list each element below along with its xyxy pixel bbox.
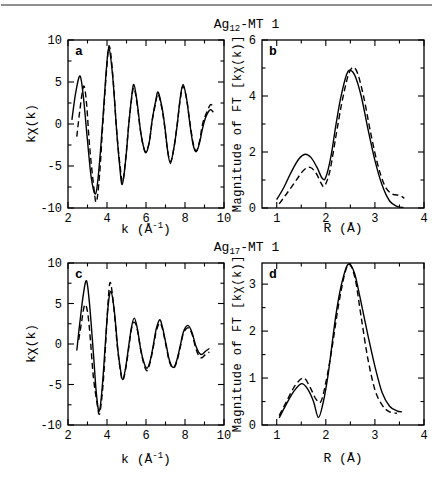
panel-d-ytick-label: 2: [249, 325, 256, 339]
panel-a-ytick-label: 10: [48, 34, 62, 48]
x-axis-title-b: R (Å): [262, 221, 424, 236]
panel-d-ytick-label: 1: [249, 372, 256, 386]
panel-c-xtick-label: 8: [181, 429, 188, 443]
panel-c-curve-experiment: [77, 281, 210, 412]
panel-c-xtick-label: 6: [142, 429, 149, 443]
exafs-figure: Ag12-MT 1 Ag17-MT 1 2468101050-5-1012346…: [0, 0, 435, 486]
panel-b-curve-experiment: [277, 70, 404, 207]
panel-d-xtick-label: 4: [420, 429, 427, 443]
panel-label-c: c: [75, 267, 83, 282]
panel-c-ytick-label: 5: [55, 298, 62, 312]
panel-c-curve-fit: [79, 282, 210, 414]
y-axis-title-d-text: Magnitude of FT [kχ(k)]: [231, 255, 245, 432]
k-label-prefix: k (Å: [121, 222, 152, 237]
panel-a-ytick-label: 5: [55, 76, 62, 90]
panel-a-curve-experiment: [72, 48, 213, 194]
x-axis-title-a: k (Å-1): [68, 221, 224, 237]
y-axis-title-b-text: Magnitude of FT [kχ(k)]: [231, 35, 245, 212]
panel-b-ytick-label: 0: [249, 202, 256, 216]
y-axis-title-b: Magnitude of FT [kχ(k)]: [229, 38, 247, 210]
panel-d-curve-experiment: [279, 264, 402, 418]
r-label: R (Å): [323, 451, 362, 466]
panel-c-xtick-label: 10: [217, 429, 231, 443]
panel-b-ytick-label: 4: [249, 90, 256, 104]
y-axis-title-c: kχ(k): [22, 263, 40, 425]
panel-b-curve-fit: [279, 67, 404, 203]
panel-d-xtick-label: 3: [371, 429, 378, 443]
panel-b-ytick-label: 6: [249, 34, 256, 48]
panel-label-b: b: [269, 44, 277, 59]
panel-d-xtick-label: 1: [273, 429, 280, 443]
panel-b-ytick-label: 2: [249, 146, 256, 160]
panel-a-ytick-label: 0: [55, 118, 62, 132]
panel-d-curve-fit: [279, 264, 397, 416]
panel-a-ytick-label: -5: [48, 160, 62, 174]
panel-c-ytick-label: 10: [48, 257, 62, 271]
x-axis-title-c: k (Å-1): [68, 451, 224, 467]
k-label-superscript: -1: [152, 221, 163, 231]
k-label-prefix: k (Å: [121, 452, 152, 467]
panel-d-ytick-label: 3: [249, 278, 256, 292]
panel-c-ytick-label: -10: [40, 419, 62, 433]
panel-a-ytick-label: -10: [40, 202, 62, 216]
panel-a-curve-fit: [77, 46, 213, 202]
y-axis-title-d: Magnitude of FT [kχ(k)]: [229, 261, 247, 427]
k-label-suffix: ): [163, 222, 171, 237]
k-label-suffix: ): [163, 452, 171, 467]
k-label-superscript: -1: [152, 451, 163, 461]
y-axis-title-a: kχ(k): [22, 40, 40, 208]
panel-c-xtick-label: 4: [103, 429, 110, 443]
panel-c-ytick-label: 0: [55, 338, 62, 352]
panel-d-frame: [262, 263, 424, 425]
y-axis-title-a-text: kχ(k): [24, 104, 39, 143]
x-axis-title-d: R (Å): [262, 451, 424, 466]
panel-c-xtick-label: 2: [64, 429, 71, 443]
panel-label-a: a: [75, 44, 83, 59]
r-label: R (Å): [323, 221, 362, 236]
panel-d-xtick-label: 2: [322, 429, 329, 443]
figure-svg: 2468101050-5-10123464202468101050-5-1012…: [0, 0, 435, 486]
panel-label-d: d: [269, 267, 277, 282]
y-axis-title-c-text: kχ(k): [24, 324, 39, 363]
panel-d-ytick-label: 0: [249, 419, 256, 433]
panel-c-ytick-label: -5: [48, 379, 62, 393]
